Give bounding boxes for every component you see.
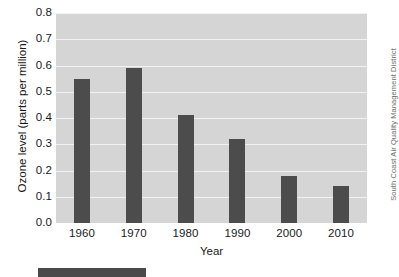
bar	[281, 176, 297, 223]
clipped-bottom-element	[38, 268, 146, 277]
y-axis-tick-label: 0.0	[0, 217, 52, 229]
y-axis-title: Ozone level (parts per million)	[16, 21, 28, 211]
x-axis-tick-label: 2010	[311, 228, 371, 240]
bar	[74, 79, 90, 223]
plot-area	[56, 13, 367, 223]
source-credit-text: South Coast Air Quality Management Distr…	[389, 35, 398, 215]
x-axis-tick-labels: 196019701980199020002010	[56, 228, 367, 244]
bar	[178, 115, 194, 223]
bar-chart-figure: 0.80.70.60.50.40.30.20.10.0 Ozone level …	[0, 0, 399, 277]
bar	[126, 68, 142, 223]
bars-group	[56, 13, 367, 223]
bar	[333, 186, 349, 223]
x-axis-title: Year	[56, 245, 367, 257]
y-axis-tick-label: 0.8	[0, 7, 52, 19]
bar	[229, 139, 245, 223]
